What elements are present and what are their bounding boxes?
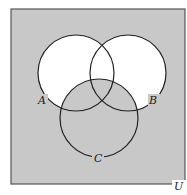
label-c: C: [94, 152, 103, 165]
label-universe: U: [174, 180, 184, 193]
label-b: B: [148, 94, 157, 107]
label-a: A: [37, 94, 46, 107]
venn-diagram: A B C U: [0, 0, 187, 195]
